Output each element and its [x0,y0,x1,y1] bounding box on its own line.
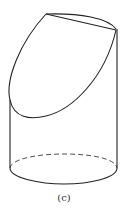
figure-caption: (c) [0,192,128,203]
base-hidden-arc [10,154,117,168]
base-front-arc [10,168,117,184]
truncated-cylinder-diagram [0,0,128,213]
cut-ellipse-left [9,14,116,118]
